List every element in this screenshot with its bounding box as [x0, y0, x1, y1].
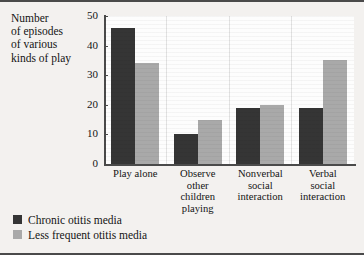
y-tick-label: 20: [74, 99, 98, 110]
bar: [260, 105, 284, 164]
group-separator: [291, 16, 292, 164]
bar: [323, 60, 347, 164]
bar: [111, 28, 135, 164]
bar: [299, 108, 323, 164]
group-separator: [166, 16, 167, 164]
bar: [236, 108, 260, 164]
legend-swatch-icon: [13, 215, 22, 224]
y-axis-line: [104, 15, 106, 165]
legend-item-chronic[interactable]: Chronic otitis media: [13, 212, 147, 227]
y-tick-label: 40: [74, 40, 98, 51]
y-tick-mark: [104, 105, 108, 106]
bar: [135, 63, 159, 164]
y-tick-mark: [104, 16, 108, 17]
bar-chart-figure: Number of episodes of various kinds of p…: [0, 0, 364, 255]
legend-item-less-frequent[interactable]: Less frequent otitis media: [13, 227, 147, 242]
y-tick-mark: [104, 46, 108, 47]
x-category-label: Verbal social interaction: [286, 168, 361, 203]
x-axis-line: [104, 164, 356, 166]
legend: Chronic otitis media Less frequent otiti…: [13, 212, 147, 242]
y-tick-label: 0: [74, 158, 98, 169]
bar: [174, 134, 198, 164]
y-tick-mark: [104, 134, 108, 135]
y-tick-label: 10: [74, 128, 98, 139]
legend-swatch-icon: [13, 230, 22, 239]
legend-label: Less frequent otitis media: [28, 229, 147, 241]
bar: [198, 120, 222, 164]
group-separator: [229, 16, 230, 164]
y-tick-mark: [104, 75, 108, 76]
y-tick-label: 50: [74, 10, 98, 21]
legend-label: Chronic otitis media: [28, 214, 122, 226]
y-tick-label: 30: [74, 69, 98, 80]
